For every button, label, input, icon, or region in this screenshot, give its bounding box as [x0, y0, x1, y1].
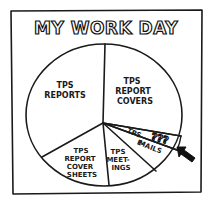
svg-text:COVERS: COVERS: [117, 97, 153, 106]
svg-text:TPS: TPS: [111, 148, 126, 156]
svg-text:TPS: TPS: [123, 77, 140, 86]
divider-meetings-coversheets: [103, 123, 109, 185]
svg-text:REPORTS: REPORTS: [44, 91, 86, 100]
label-tps-report-cover-sheets: TPS REPORT COVER SHEETS: [64, 147, 97, 179]
label-tps-report-covers: TPS REPORT COVERS: [115, 77, 153, 106]
pie-chart: [26, 44, 182, 186]
svg-text:SHEETS: SHEETS: [67, 171, 97, 179]
svg-text:TPS: TPS: [74, 147, 89, 155]
arrow-icon: [177, 147, 195, 162]
divider-top: [103, 44, 105, 123]
svg-text:REPORT: REPORT: [115, 87, 151, 96]
chart-title: MY WORK DAY: [34, 18, 178, 38]
svg-text:MEET-: MEET-: [106, 156, 129, 164]
svg-text:INGS: INGS: [111, 164, 130, 172]
svg-text:REPORT: REPORT: [64, 155, 95, 163]
svg-text:TPS: TPS: [56, 81, 73, 90]
svg-text:COVER: COVER: [67, 163, 94, 171]
comic-panel: MY WORK DAY TPS REPORTS TPS REPORT COVER…: [0, 0, 218, 205]
divider-coversheets-reports: [42, 123, 103, 157]
label-tps-reports: TPS REPORTS: [44, 81, 86, 100]
label-tps-meetings: TPS MEET- INGS: [106, 148, 130, 172]
